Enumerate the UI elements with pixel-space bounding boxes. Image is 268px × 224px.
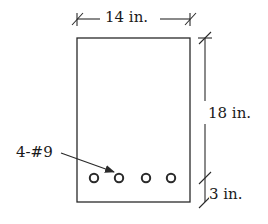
rebar-group <box>90 174 175 182</box>
rebar-1 <box>90 174 98 182</box>
width-label: 14 in. <box>103 10 150 25</box>
cover-label: 3 in. <box>209 187 243 202</box>
beam-cross-section-diagram: 14 in. 18 in. 3 in. 4-#9 <box>0 0 268 224</box>
height-label: 18 in. <box>208 104 251 123</box>
rebar-3 <box>142 174 150 182</box>
rebar-4 <box>167 174 175 182</box>
rebar-2 <box>115 174 123 182</box>
reinforcement-label: 4-#9 <box>16 145 53 160</box>
rebar-leader-arrow <box>61 153 114 172</box>
